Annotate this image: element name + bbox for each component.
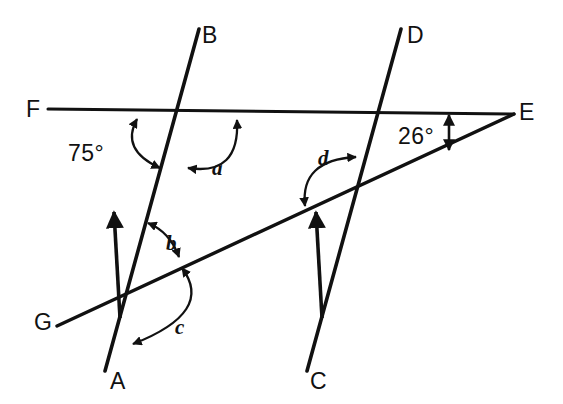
angle-label-d: d <box>318 148 329 169</box>
point-label-F: F <box>26 98 40 121</box>
direction-arrow-CD <box>316 212 322 318</box>
line-FE <box>48 109 514 114</box>
angle-label-b: b <box>166 233 177 254</box>
angle-label-75: 75° <box>68 142 104 165</box>
line-AB <box>105 29 199 371</box>
point-label-C: C <box>310 370 327 393</box>
point-label-B: B <box>202 24 217 47</box>
geometry-canvas <box>0 0 563 404</box>
line-CD <box>307 29 401 371</box>
point-label-A: A <box>110 370 125 393</box>
point-label-D: D <box>407 24 424 47</box>
angle-label-c: c <box>175 317 184 338</box>
point-label-G: G <box>34 311 52 334</box>
direction-arrow-AB <box>114 212 120 318</box>
angle-label-a: a <box>212 158 223 179</box>
geometry-figure: B D F E G A C 75° 26° a b c d <box>0 0 563 404</box>
point-label-E: E <box>519 101 534 124</box>
angle-label-26: 26° <box>398 125 434 148</box>
arc-angle-75 <box>132 119 160 168</box>
